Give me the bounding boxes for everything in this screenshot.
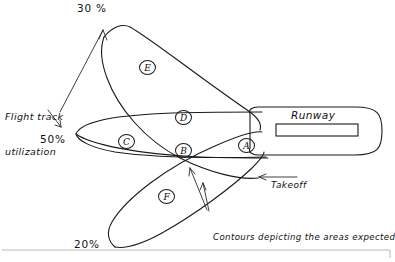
contour-label-e: E xyxy=(139,60,156,75)
caption-line-1: Contours depicting the areas expected xyxy=(213,232,395,243)
percent-label-30: 30 % xyxy=(77,2,107,14)
runway-rectangle xyxy=(276,124,358,136)
arrowhead-caption-right xyxy=(200,183,206,190)
percent-label-20: 20% xyxy=(74,238,100,250)
contour-label-d: D xyxy=(175,110,192,125)
contour-label-b: B xyxy=(175,143,192,158)
contour-label-c: C xyxy=(118,134,135,149)
noise-contour-figure: 30 % Flight track utilization 50% 20% Ru… xyxy=(0,0,395,262)
ftu-line-2: utilization xyxy=(5,146,64,158)
caption-text: Contours depicting the areas expected to… xyxy=(213,211,395,262)
contour-label-f: F xyxy=(158,189,175,204)
leader-30-percent xyxy=(60,30,103,112)
runway-label: Runway xyxy=(291,109,335,121)
contour-label-a: A xyxy=(238,138,255,153)
percent-label-50: 50% xyxy=(40,133,66,145)
ftu-line-1: Flight track xyxy=(5,111,64,123)
contour-shape-c xyxy=(76,112,266,157)
takeoff-label: Takeoff xyxy=(271,180,306,190)
